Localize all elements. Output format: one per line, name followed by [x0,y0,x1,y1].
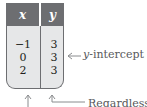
left-arrow-icon [68,53,81,59]
up-arrow-y-icon [49,95,85,102]
up-arrow-x-icon [25,95,31,107]
y-intercept-label: y-intercept [83,48,144,61]
intercept-text: -intercept [89,48,144,61]
regardless-label: Regardless [88,97,147,107]
